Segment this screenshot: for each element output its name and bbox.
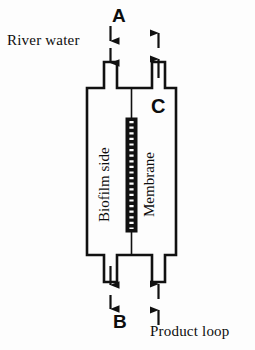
label-point-c: C — [151, 96, 165, 116]
label-point-a: A — [112, 6, 126, 25]
label-membrane: Membrane — [142, 152, 157, 217]
membrane-bar — [126, 118, 137, 232]
diagram-canvas: River water Product loop A B C Biofilm s… — [0, 0, 255, 350]
membrane-element — [126, 118, 137, 232]
label-biofilm-side: Biofilm side — [97, 147, 112, 222]
label-product-loop: Product loop — [150, 324, 229, 339]
label-point-b: B — [113, 312, 127, 331]
label-river-water: River water — [7, 33, 80, 48]
reactor-schematic — [0, 0, 255, 350]
